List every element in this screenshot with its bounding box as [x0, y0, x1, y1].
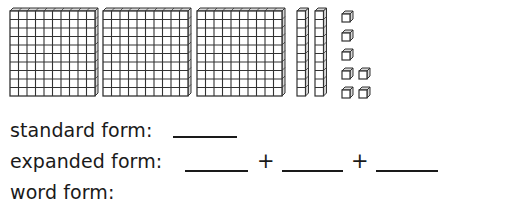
hundreds-flat: [103, 8, 191, 96]
ones-cube: [342, 30, 353, 41]
expanded-form-label: expanded form:: [10, 149, 162, 173]
word-form-label: word form:: [10, 180, 114, 204]
tens-rod: [297, 8, 309, 96]
ones-cube: [342, 49, 353, 60]
base-ten-blocks: [0, 0, 531, 106]
expanded-form-blank-hundreds[interactable]: [185, 170, 248, 172]
expanded-form-blank-ones[interactable]: [376, 170, 438, 172]
hundreds-flat: [197, 8, 285, 96]
ones-cube: [342, 68, 353, 79]
ones-cube: [342, 87, 353, 98]
standard-form-blank[interactable]: [173, 136, 237, 138]
ones-cube: [359, 68, 370, 79]
standard-form-label: standard form:: [10, 118, 152, 142]
tens-rod: [315, 8, 327, 96]
plus-sign-1: +: [257, 149, 275, 173]
ones-cube: [359, 87, 370, 98]
hundreds-flat: [10, 8, 98, 96]
ones-cube: [342, 11, 353, 22]
plus-sign-2: +: [351, 149, 369, 173]
expanded-form-blank-tens[interactable]: [282, 170, 343, 172]
base-ten-blocks-illustration: [0, 0, 531, 106]
